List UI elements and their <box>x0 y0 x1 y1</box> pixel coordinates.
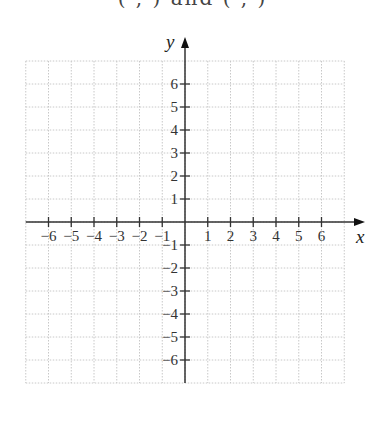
x-tick-label: −3 <box>109 228 125 244</box>
x-tick-label: 5 <box>295 228 303 244</box>
y-tick-label: −2 <box>162 260 178 276</box>
y-tick-label: −3 <box>162 283 178 299</box>
x-tick-label: −2 <box>132 228 148 244</box>
y-tick-label: 2 <box>171 168 179 184</box>
y-tick-label: −1 <box>162 237 178 253</box>
y-tick-label: 3 <box>171 145 179 161</box>
y-tick-label: 1 <box>171 191 179 207</box>
x-tick-label: 3 <box>250 228 258 244</box>
y-tick-label: −6 <box>162 352 178 368</box>
y-axis-arrow-icon <box>181 37 189 48</box>
y-tick-label: 6 <box>171 76 179 92</box>
x-tick-label: −5 <box>63 228 79 244</box>
x-tick-label: −4 <box>86 228 102 244</box>
x-tick-label: 1 <box>204 228 212 244</box>
coordinate-plane: −6−5−4−3−2−1123456−6−5−4−3−2−1123456 x y <box>0 0 385 421</box>
x-tick-label: 2 <box>227 228 235 244</box>
x-tick-label: 4 <box>272 228 280 244</box>
y-tick-label: 5 <box>171 99 179 115</box>
x-tick-label: −6 <box>41 228 57 244</box>
x-tick-label: 6 <box>318 228 326 244</box>
y-tick-label: −4 <box>162 306 178 322</box>
x-axis-label: x <box>355 226 365 247</box>
y-tick-label: 4 <box>171 122 179 138</box>
x-axis-arrow-icon <box>354 218 365 226</box>
axes <box>26 37 365 383</box>
y-tick-label: −5 <box>162 329 178 345</box>
y-axis-label: y <box>164 31 175 52</box>
